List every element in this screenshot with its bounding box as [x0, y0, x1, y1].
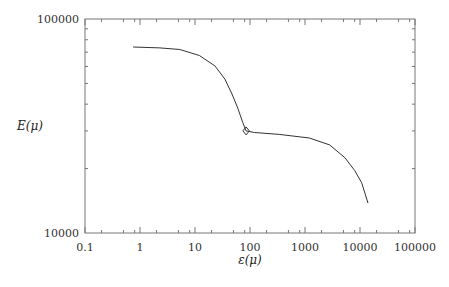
data-line	[133, 47, 368, 203]
plot-frame	[85, 19, 415, 233]
svg-text:1000: 1000	[291, 241, 319, 254]
chart: 0.1110100100010000100000 10000100000 ε(μ…	[0, 0, 449, 287]
svg-text:100000: 100000	[37, 13, 79, 26]
svg-text:10000: 10000	[44, 227, 79, 240]
svg-text:1: 1	[137, 241, 144, 254]
y-axis-label: E(μ)	[16, 119, 43, 133]
svg-text:0.1: 0.1	[76, 241, 94, 254]
svg-text:10000: 10000	[343, 241, 378, 254]
svg-text:10: 10	[188, 241, 202, 254]
y-axis-tick-labels: 10000100000	[37, 13, 79, 240]
x-axis-ticks	[85, 19, 415, 233]
svg-text:100000: 100000	[394, 241, 436, 254]
y-axis-ticks	[85, 29, 415, 169]
x-axis-label: ε(μ)	[238, 253, 262, 267]
